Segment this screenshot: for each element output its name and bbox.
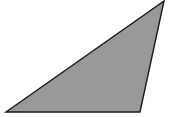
triangle-svg — [0, 0, 175, 117]
figure-canvas — [0, 0, 175, 117]
